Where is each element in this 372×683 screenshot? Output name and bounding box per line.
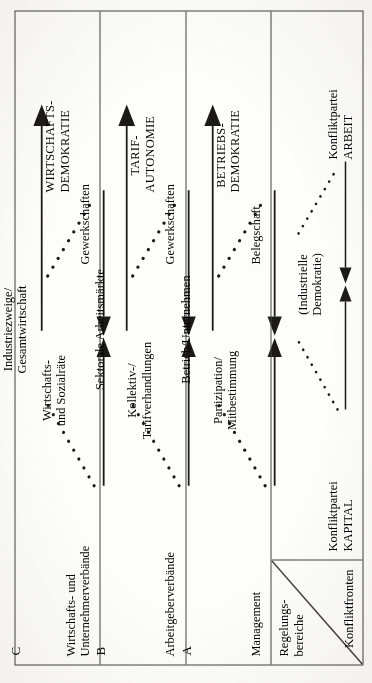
diagram-c: Wirtschafts- und Unternehmerverbände Wir… [15, 11, 99, 664]
topic-center-c: Wirtschafts- und Sozialräte [39, 344, 68, 436]
table-row-c: C Industriezweige/ Gesamtwirtschaft [15, 11, 99, 664]
actor-left-b: Arbeitgeberverbände [162, 551, 176, 656]
conflict-body-cell: Konfliktpartei KAPITAL (Industrielle Dem… [271, 11, 362, 559]
topic-center-conflict: (Industrielle Demokratie) [295, 237, 324, 331]
table-row-conflict: Regelungs- bereiche Konfliktfronten [270, 11, 362, 664]
row-body-cell-a: Management Partizipation/ Mitbestimmung … [186, 11, 270, 664]
table-row-b: B Sektorale Arbeitsmärkte [99, 11, 184, 664]
table-row-a: A Betrieb/Unternehmen [185, 11, 270, 664]
actor-left-c: Wirtschafts- und Unternehmerverbände [63, 545, 92, 656]
figure-rotation-wrapper: C Industriezweige/ Gesamtwirtschaft [14, 10, 363, 665]
outcome-c: WIRTSCHAFTS- DEMOKRATIE [43, 118, 72, 192]
outcome-b: TARIF- AUTONOMIE [128, 118, 157, 192]
figure-canvas: C Industriezweige/ Gesamtwirtschaft [14, 10, 363, 665]
corner-label-konfliktfronten: Konfliktfronten [341, 569, 356, 647]
row-body-cell-b: Arbeitgeberverbände Kollektiv-/ Tarifver… [100, 11, 184, 664]
actor-right-a: Belegschaft [248, 206, 262, 265]
actor-right-b: Gewerkschaften [162, 184, 176, 265]
figure-table-frame: C Industriezweige/ Gesamtwirtschaft [14, 10, 363, 665]
scanned-page: C Industriezweige/ Gesamtwirtschaft [0, 0, 372, 683]
corner-header-cell: Regelungs- bereiche Konfliktfronten [271, 559, 362, 664]
topic-center-b: Kollektiv-/ Tarifverhandlungen [124, 338, 153, 442]
row-body-cell-c: Wirtschafts- und Unternehmerverbände Wir… [15, 11, 99, 664]
diagram-a: Management Partizipation/ Mitbestimmung … [186, 11, 270, 664]
actor-right-c: Gewerkschaften [77, 184, 91, 265]
diagram-conflict: Konfliktpartei KAPITAL (Industrielle Dem… [271, 11, 362, 559]
outcome-a: BETRIEBS- DEMOKRATIE [213, 118, 242, 192]
actor-left-a: Management [248, 591, 262, 656]
topic-center-a: Partizipation/ Mitbestimmung [210, 340, 239, 440]
corner-label-regelungsbereiche: Regelungs- bereiche [276, 599, 306, 656]
diagram-b: Arbeitgeberverbände Kollektiv-/ Tarifver… [100, 11, 184, 664]
actor-left-conflict: Konfliktpartei KAPITAL [325, 481, 354, 551]
actor-right-conflict: Konfliktpartei ARBEIT [325, 89, 354, 159]
